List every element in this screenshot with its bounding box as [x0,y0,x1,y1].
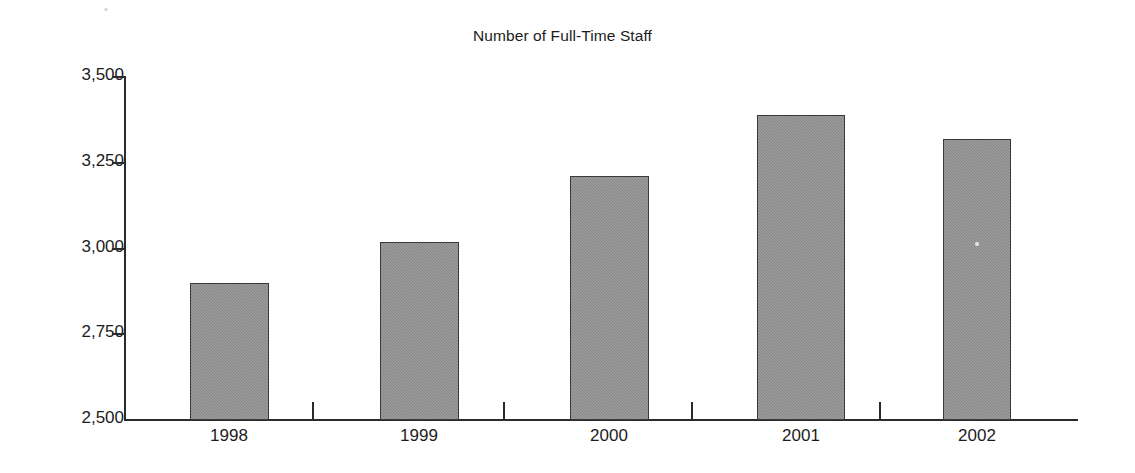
y-axis-tick-label: 3,500 [32,65,124,85]
y-axis-tick-mark [112,248,125,250]
bar-2000[interactable] [570,176,649,420]
chart-title: Number of Full-Time Staff [0,27,1125,45]
y-axis-tick-label: 3,000 [32,237,124,257]
y-axis-tick-mark [112,162,125,164]
bar-chart-figure: Number of Full-Time Staff 3,500 3,250 3,… [0,0,1135,473]
scan-speck [975,242,979,246]
x-axis-tick-mark [503,402,505,420]
y-axis-tick-label: 2,750 [32,322,124,342]
scan-speck [104,8,108,11]
y-axis-tick-label: 2,500 [32,408,124,428]
bar-1998[interactable] [190,283,269,420]
x-axis-label-2002: 2002 [927,426,1027,446]
y-axis-tick-label: 3,250 [32,151,124,171]
x-axis-label-1999: 1999 [369,426,469,446]
y-axis-tick-mark [112,76,125,78]
x-axis-label-2000: 2000 [559,426,659,446]
x-axis-label-1998: 1998 [179,426,279,446]
y-axis-tick-mark [112,333,125,335]
bar-1999[interactable] [380,242,459,420]
bar-2001[interactable] [757,115,845,420]
x-axis-tick-mark [879,402,881,420]
bar-2002[interactable] [943,139,1011,420]
x-axis-tick-mark [691,402,693,420]
x-axis-label-2001: 2001 [751,426,851,446]
x-axis-tick-mark [312,402,314,420]
